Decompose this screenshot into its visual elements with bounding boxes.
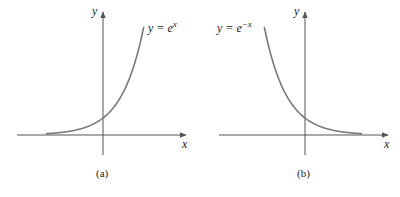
figure: y x y = ex (a) y x y = e−x (b) — [0, 0, 400, 197]
y-axis-label-a: y — [91, 4, 98, 18]
x-axis-label-b: x — [383, 137, 390, 151]
panel-a: y x y = ex (a) — [17, 4, 188, 180]
curve-exp-a — [46, 27, 144, 134]
caption-b: (b) — [297, 167, 310, 180]
curve-exp-b — [264, 27, 362, 134]
caption-a: (a) — [96, 167, 109, 180]
x-axis-label-a: x — [181, 137, 188, 151]
panel-b: y x y = e−x (b) — [216, 4, 390, 180]
equation-label-a: y = ex — [147, 19, 177, 35]
equation-label-b: y = e−x — [216, 19, 252, 35]
y-axis-label-b: y — [293, 4, 300, 18]
